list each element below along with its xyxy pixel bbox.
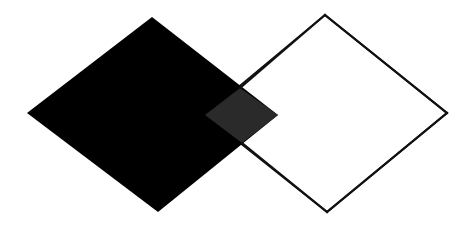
overlapping-squares-figure bbox=[0, 0, 476, 228]
figure-canvas: Abstract figure: a solid black rotated s… bbox=[0, 0, 476, 228]
